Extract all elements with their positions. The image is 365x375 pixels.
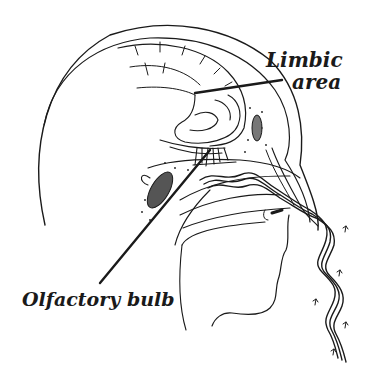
limbic-label: Limbic <box>266 50 343 70</box>
limbic-callout-line <box>195 80 282 93</box>
olfactory-diagram: Limbic area Olfactory bulb <box>0 0 365 375</box>
airflow-stream <box>200 173 346 362</box>
nose-bridge-inner <box>266 150 294 205</box>
cerebrum-outline <box>118 44 246 146</box>
olfactory-callout-line <box>100 150 210 283</box>
face-profile <box>212 215 289 326</box>
olfactory-bulb-label: Olfactory bulb <box>22 290 175 309</box>
sinus <box>142 168 178 212</box>
cortex-gyri <box>130 42 232 95</box>
limbic-area <box>160 95 240 154</box>
frontal-sinus <box>252 115 262 141</box>
limbic-label-line2: area <box>292 72 341 92</box>
nostril <box>272 210 282 213</box>
